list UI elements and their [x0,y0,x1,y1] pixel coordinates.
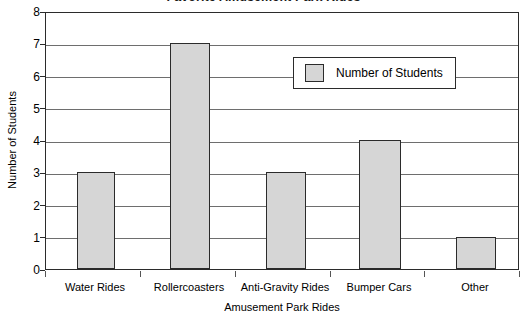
y-axis-tick-label: 1 [14,232,40,244]
y-axis-tick-label: 7 [14,38,40,50]
x-axis-tick-label: Water Rides [65,281,125,293]
bar-anti-gravity-rides[interactable] [266,172,306,269]
y-axis-tick-label: 2 [14,200,40,212]
y-axis-tick-label: 0 [14,264,40,276]
x-axis-tick-mark [140,271,141,277]
bar-bumper-cars[interactable] [359,140,401,269]
x-axis-tick-label: Other [461,281,489,293]
x-axis-tick-label: Anti-Gravity Rides [241,281,330,293]
bar-water-rides[interactable] [77,172,115,269]
x-axis-tick-label: Bumper Cars [347,281,412,293]
x-axis-tick-mark [330,271,331,277]
gridline [46,45,518,46]
bar-other[interactable] [456,237,496,269]
legend-label: Number of Students [336,66,443,80]
y-axis-tick-label: 3 [14,167,40,179]
x-axis-tick-mark [519,271,520,277]
x-axis-tick-mark [235,271,236,277]
y-axis-tick-label: 5 [14,103,40,115]
bar-chart: Favorite Amusement Park Rides Number of … [0,0,527,315]
x-axis-title: Amusement Park Rides [45,301,519,313]
y-axis-tick-label: 8 [14,6,40,18]
gridline [46,142,518,143]
x-axis-tick-mark [424,271,425,277]
chart-legend: Number of Students [293,57,456,89]
y-axis-tick-label: 4 [14,135,40,147]
bar-rollercoasters[interactable] [170,43,210,269]
x-axis-tick-mark [45,271,46,277]
y-axis-scale: 876543210 [0,12,40,270]
plot-area [45,12,519,270]
x-axis-tick-label: Rollercoasters [154,281,224,293]
chart-title: Favorite Amusement Park Rides [0,0,527,4]
legend-swatch-icon [305,64,324,82]
gridline [46,109,518,110]
y-axis-tick-label: 6 [14,71,40,83]
